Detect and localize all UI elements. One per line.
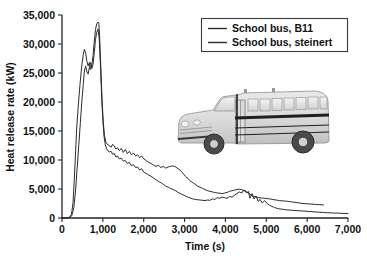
y-tick-label: 0	[49, 212, 55, 224]
bus-windows	[248, 97, 327, 111]
y-tick-label: 15,000	[23, 125, 55, 137]
x-tick-label: 0	[59, 223, 65, 235]
x-tick-label: 6,000	[294, 223, 320, 235]
y-axis-ticks: 05,00010,00015,00020,00025,00030,00035,0…	[23, 9, 62, 224]
x-axis-ticks: 01,0002,0003,0004,0005,0006,0007,000	[59, 218, 361, 235]
legend-label-0: School bus, B11	[232, 22, 313, 34]
legend-label-1: School bus, steinert	[232, 36, 333, 48]
y-tick-label: 10,000	[23, 154, 55, 166]
x-axis-title: Time (s)	[185, 240, 225, 252]
x-tick-label: 4,000	[212, 223, 238, 235]
y-tick-label: 35,000	[23, 9, 55, 21]
bus-hood	[178, 95, 236, 143]
x-tick-label: 2,000	[131, 223, 157, 235]
y-tick-label: 25,000	[23, 67, 55, 79]
x-tick-label: 5,000	[253, 223, 279, 235]
x-tick-label: 3,000	[171, 223, 197, 235]
y-tick-label: 5,000	[29, 183, 55, 195]
x-tick-label: 1,000	[90, 223, 116, 235]
x-tick-label: 7,000	[335, 223, 361, 235]
y-tick-label: 20,000	[23, 96, 55, 108]
chart-legend[interactable]: School bus, B11 School bus, steinert	[202, 19, 348, 52]
chart-figure: 01,0002,0003,0004,0005,0006,0007,000 05,…	[0, 0, 367, 259]
y-tick-label: 30,000	[23, 38, 55, 50]
y-axis-title: Heat release rate (kW)	[4, 62, 16, 172]
school-bus-illustration	[168, 66, 340, 158]
